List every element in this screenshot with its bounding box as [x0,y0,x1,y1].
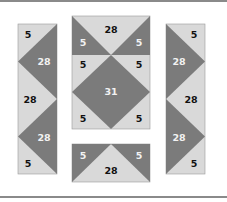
right-label-bottom: 5 [191,158,198,169]
left-label-middle: 28 [23,94,37,105]
center-label-mid-left: 5 [80,59,87,70]
center-label-bottom-left: 5 [80,113,87,124]
bottom-block: 5 5 28 [72,144,150,182]
bottom-label-dark-right: 5 [136,150,143,161]
left-label-dark-upper: 28 [37,56,51,67]
right-label-dark-lower: 28 [172,132,186,143]
left-label-dark-lower: 28 [37,132,51,143]
right-label-dark-upper: 28 [172,56,186,67]
right-label-middle: 28 [184,94,198,105]
bottom-label-center: 28 [104,165,118,176]
center-label-top: 28 [104,24,118,35]
quilt-diagram: 5 28 28 28 5 28 5 5 5 5 31 5 5 5 5 28 5 … [0,0,227,202]
center-block: 28 5 5 5 5 31 5 5 [72,16,150,129]
right-label-top: 5 [191,29,198,40]
left-strip: 5 28 28 28 5 [18,24,57,174]
center-label-mid-right: 5 [136,59,143,70]
left-label-top: 5 [25,29,32,40]
center-label-dark-left: 5 [80,37,87,48]
center-label-bottom-right: 5 [136,113,143,124]
right-strip: 5 28 28 28 5 [166,24,205,174]
center-label-diamond: 31 [104,86,117,97]
left-label-bottom: 5 [25,158,32,169]
center-label-dark-right: 5 [136,37,143,48]
bottom-label-dark-left: 5 [80,150,87,161]
